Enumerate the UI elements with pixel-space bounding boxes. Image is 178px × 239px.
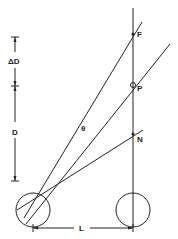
- delta-d-dimension: ΔD: [8, 37, 20, 86]
- ray-to-fixation-point: [26, 44, 170, 224]
- label-l: L: [79, 224, 84, 233]
- eye-vergence-diagram: F P N θ ΔD D L: [0, 0, 178, 239]
- l-dimension: L: [33, 224, 133, 233]
- label-theta: θ: [81, 124, 85, 133]
- label-p: P: [137, 84, 143, 93]
- d-dimension: D: [11, 86, 19, 181]
- label-d: D: [12, 128, 18, 137]
- ray-to-far-point: [24, 22, 142, 218]
- label-n: N: [137, 135, 143, 144]
- far-point-marker: [132, 33, 135, 36]
- label-delta-d: ΔD: [8, 57, 20, 66]
- left-eye: [16, 193, 50, 227]
- near-point-marker: [132, 133, 135, 136]
- ray-to-near-point: [17, 130, 143, 210]
- label-f: F: [137, 30, 142, 39]
